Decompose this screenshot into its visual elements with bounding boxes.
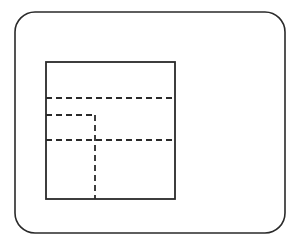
inner-square: [46, 62, 175, 199]
dashed-divider-lines: [46, 98, 175, 199]
diagram-canvas: [0, 0, 304, 247]
